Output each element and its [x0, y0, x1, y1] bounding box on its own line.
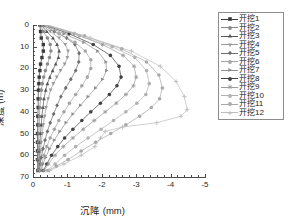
x-minor-tick — [88, 175, 89, 177]
data-point — [74, 93, 78, 97]
data-point — [61, 145, 65, 149]
data-point — [89, 58, 93, 62]
data-point — [94, 86, 98, 90]
series-line — [47, 25, 163, 170]
x-minor-tick — [143, 175, 144, 177]
data-point — [58, 130, 62, 134]
data-point — [55, 103, 59, 107]
data-point — [55, 76, 59, 80]
data-point — [48, 75, 52, 79]
data-point — [93, 144, 97, 148]
data-point — [46, 62, 50, 66]
legend-marker-icon — [225, 32, 235, 40]
y-minor-tick — [33, 81, 35, 82]
y-tick — [33, 134, 37, 135]
data-point — [57, 119, 61, 123]
data-point — [144, 93, 148, 97]
legend-marker-icon — [225, 109, 235, 117]
series-6 — [39, 25, 93, 172]
x-tick-label: -3 — [133, 181, 140, 189]
data-point — [51, 82, 55, 86]
data-point — [157, 73, 161, 77]
y-minor-tick — [33, 164, 35, 165]
y-tick-label: 20 — [10, 64, 29, 72]
legend-sample-triangle-up-icon — [221, 32, 238, 40]
data-point — [66, 56, 70, 60]
data-point — [161, 86, 165, 90]
data-point — [71, 127, 75, 131]
y-tick — [33, 155, 37, 156]
data-point — [120, 125, 124, 129]
legend-sample-triangle-down-icon — [221, 41, 238, 49]
y-minor-tick — [33, 55, 35, 56]
legend-sample-diamond-icon — [221, 49, 238, 57]
x-axis-line — [33, 177, 205, 178]
y-minor-tick — [33, 77, 35, 78]
y-tick-label: 70 — [10, 173, 29, 181]
x-tick — [102, 174, 103, 178]
legend-sample-plus-icon — [221, 109, 238, 117]
x-minor-tick — [191, 175, 192, 177]
data-point — [84, 49, 88, 53]
data-point — [57, 56, 61, 60]
y-minor-tick — [33, 60, 35, 61]
y-tick — [33, 25, 37, 26]
data-point — [62, 110, 66, 114]
data-point — [145, 69, 149, 73]
data-point — [50, 154, 54, 158]
x-minor-tick — [177, 175, 178, 177]
y-minor-tick — [33, 116, 35, 117]
data-point — [71, 136, 75, 140]
data-point — [42, 97, 46, 101]
data-point — [46, 129, 50, 133]
data-point — [52, 112, 56, 116]
y-axis-title: 深度 (m) — [0, 90, 6, 127]
x-minor-tick — [157, 175, 158, 177]
data-point — [56, 145, 60, 149]
data-point — [44, 88, 48, 92]
data-point — [48, 56, 52, 60]
chart-legend[interactable]: 开挖1开挖2开挖3开挖4开挖5开挖6开挖7开挖8开挖9开挖10开挖11开挖12 — [218, 12, 284, 120]
data-point — [37, 82, 40, 85]
data-point — [79, 153, 83, 157]
data-point — [117, 64, 121, 68]
data-point — [48, 121, 52, 125]
data-point — [74, 68, 78, 72]
data-point — [124, 92, 128, 96]
y-minor-tick — [33, 73, 35, 74]
data-point — [86, 136, 90, 140]
x-minor-tick — [40, 175, 41, 177]
data-point — [51, 69, 55, 73]
x-minor-tick — [164, 175, 165, 177]
data-point — [39, 88, 43, 92]
data-point — [158, 97, 162, 101]
x-tick — [171, 174, 172, 178]
data-point — [103, 110, 107, 114]
data-point — [145, 60, 149, 64]
data-point — [105, 69, 109, 73]
x-minor-tick — [150, 175, 151, 177]
settlement-depth-chart: 0-1-2-3-4-5010203040506070 沉降 (mm) 深度 (m… — [0, 0, 288, 219]
legend-sample-filled-square-icon — [221, 15, 238, 23]
y-tick-label: 50 — [10, 130, 29, 138]
y-minor-tick — [33, 173, 35, 174]
data-point — [48, 147, 52, 151]
data-point — [63, 154, 67, 158]
data-point — [39, 97, 43, 101]
data-point — [46, 97, 50, 101]
legend-marker-icon — [225, 58, 235, 66]
data-point — [57, 49, 61, 53]
data-point — [115, 84, 119, 88]
y-minor-tick — [33, 86, 35, 87]
data-point — [44, 69, 48, 73]
y-minor-tick — [33, 147, 35, 148]
data-point — [39, 62, 42, 65]
data-point — [42, 30, 46, 34]
data-point — [46, 36, 50, 40]
data-point — [46, 82, 50, 86]
y-tick-label: 60 — [10, 151, 29, 159]
data-point — [91, 43, 95, 47]
legend-sample-circle-icon — [221, 58, 238, 66]
y-tick — [33, 112, 37, 113]
legend-item-12[interactable]: 开挖12 — [221, 109, 281, 118]
